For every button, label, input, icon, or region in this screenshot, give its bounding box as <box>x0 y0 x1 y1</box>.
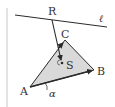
point-a-label: A <box>19 85 29 98</box>
angle-alpha-arc <box>45 83 47 90</box>
point-s-label: S <box>66 59 74 72</box>
line-l-label: ℓ <box>99 13 103 24</box>
point-b-label: B <box>97 65 105 78</box>
geometry-diagram: ℓ R C S B A α <box>0 0 115 107</box>
point-s-dot <box>61 62 64 65</box>
point-c-label: C <box>61 28 69 41</box>
angle-alpha-label: α <box>49 88 56 99</box>
point-r-label: R <box>48 5 57 18</box>
line-l <box>15 15 107 27</box>
